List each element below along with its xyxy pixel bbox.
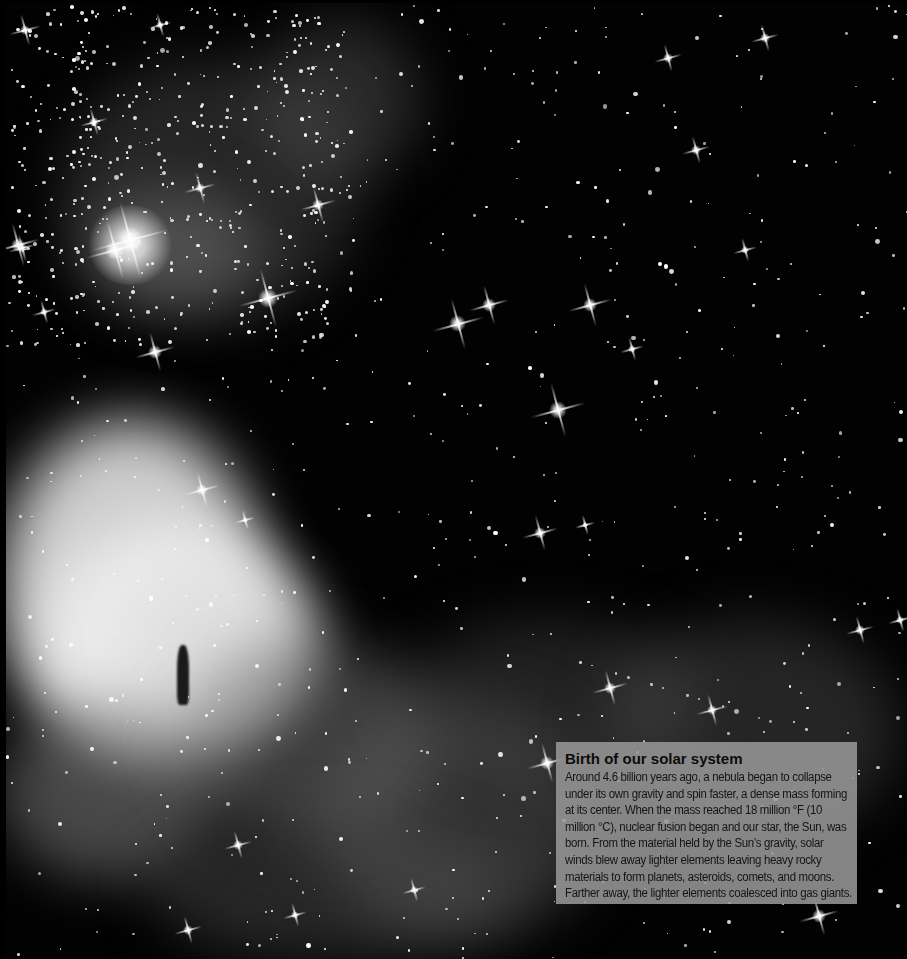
caption-body: Around 4.6 billion years ago, a nebula b… [565,769,853,902]
image-border-top [0,0,907,3]
dust-pillar [177,645,189,705]
nebula-photograph: Birth of our solar system Around 4.6 bil… [0,0,907,959]
image-border-left [0,0,6,959]
caption-title: Birth of our solar system [565,750,848,767]
caption-box: Birth of our solar system Around 4.6 bil… [556,742,857,904]
